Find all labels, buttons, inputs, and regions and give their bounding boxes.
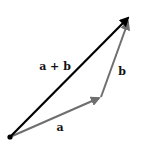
vector-b-arrow bbox=[101, 22, 128, 97]
vector-a-arrow bbox=[10, 98, 99, 137]
vector-b-label: b bbox=[118, 65, 126, 78]
vector-sum-arrow bbox=[10, 18, 128, 137]
vector-addition-diagram: a + b b a bbox=[0, 0, 143, 149]
origin-point bbox=[7, 134, 12, 139]
vector-a-label: a bbox=[56, 121, 63, 134]
vector-sum-label: a + b bbox=[39, 60, 71, 73]
